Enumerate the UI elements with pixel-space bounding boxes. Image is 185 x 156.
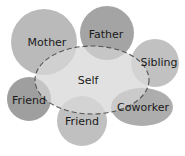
relationship-diagram: Mother Father Sibling Self Friend Cowork… bbox=[0, 0, 185, 156]
coworker-label: Coworker bbox=[117, 101, 169, 114]
friend-bottom-label: Friend bbox=[65, 115, 99, 128]
father-label: Father bbox=[89, 28, 124, 41]
sibling-label: Sibling bbox=[140, 56, 177, 69]
mother-label: Mother bbox=[28, 36, 67, 49]
self-label: Self bbox=[78, 74, 100, 87]
friend-left-label: Friend bbox=[12, 94, 46, 107]
